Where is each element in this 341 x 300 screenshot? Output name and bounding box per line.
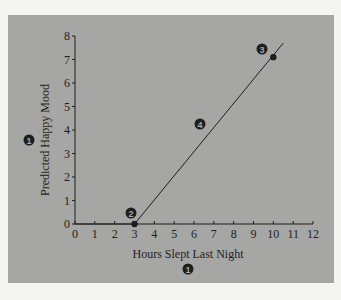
x-tick-label: 2 <box>112 227 118 241</box>
axes: 0123456789101112012345678 <box>64 29 319 241</box>
plot-area <box>75 43 283 227</box>
svg-text:4: 4 <box>197 120 202 130</box>
x-tick-label: 4 <box>151 227 157 241</box>
svg-text:1: 1 <box>26 136 31 146</box>
x-tick-label: 9 <box>251 227 257 241</box>
svg-text:3: 3 <box>259 45 264 55</box>
prediction-line <box>75 43 283 224</box>
x-tick-label: 3 <box>132 227 138 241</box>
y-tick-label: 7 <box>64 53 70 67</box>
x-tick-label: 6 <box>191 227 197 241</box>
x-tick-label: 11 <box>287 227 299 241</box>
svg-text:2: 2 <box>128 209 133 219</box>
data-point <box>270 54 276 60</box>
x-tick-label: 0 <box>72 227 78 241</box>
x-tick-label: 12 <box>307 227 319 241</box>
y-tick-label: 6 <box>64 76 70 90</box>
marker-slope: 4 <box>195 119 206 130</box>
x-tick-label: 8 <box>231 227 237 241</box>
x-tick-label: 5 <box>171 227 177 241</box>
svg-text:1: 1 <box>185 265 190 275</box>
y-axis-label: Predicted Happy Mood <box>38 84 52 196</box>
y-tick-label: 4 <box>64 123 70 137</box>
y-tick-label: 1 <box>64 194 70 208</box>
y-tick-label: 2 <box>64 170 70 184</box>
y-tick-label: 3 <box>64 147 70 161</box>
x-tick-label: 7 <box>211 227 217 241</box>
y-tick-label: 0 <box>64 217 70 231</box>
x-axis-label: Hours Slept Last Night <box>133 247 245 261</box>
data-point <box>131 221 137 227</box>
y-tick-label: 5 <box>64 100 70 114</box>
chart-svg: 0123456789101112012345678 Hours Slept La… <box>0 0 341 300</box>
marker-y-axis: 1 <box>24 135 35 146</box>
marker-intercept: 2 <box>126 208 137 219</box>
marker-point: 3 <box>257 44 268 55</box>
marker-x-axis: 1 <box>183 264 194 275</box>
x-tick-label: 1 <box>92 227 98 241</box>
y-tick-label: 8 <box>64 29 70 43</box>
x-tick-label: 10 <box>267 227 279 241</box>
